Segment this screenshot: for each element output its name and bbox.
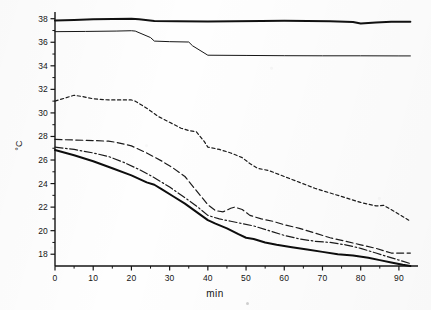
x-tick-label: 90 [385,274,413,283]
x-tick-label: 60 [270,274,298,283]
series-temperature-step-line [55,31,410,56]
y-tick-label: 28 [20,132,48,141]
series-dashed-temperature-curve [55,139,410,253]
x-tick-label: 30 [156,274,184,283]
y-tick-label: 32 [20,85,48,94]
x-tick-label: 70 [308,274,336,283]
x-tick-label: 50 [232,274,260,283]
y-tick-label: 22 [20,203,48,212]
x-tick-label: 80 [347,274,375,283]
y-tick-label: 38 [20,15,48,24]
y-tick-label: 34 [20,62,48,71]
figure-panel: °C min 182022242628303234363801020304050… [0,0,431,310]
x-tick-label: 0 [41,274,69,283]
y-tick-label: 26 [20,156,48,165]
series-dash-dot-temperature-curve [55,147,410,264]
x-axis-title: min [160,288,270,299]
line-chart-plot [0,0,431,310]
x-tick-label: 20 [117,274,145,283]
series-core-temperature-upper [55,19,410,24]
series-dotted-temperature-curve [55,95,410,221]
y-tick-label: 20 [20,227,48,236]
y-tick-label: 24 [20,180,48,189]
x-tick-label: 10 [79,274,107,283]
x-tick-label: 40 [194,274,222,283]
scan-speck [246,302,249,305]
y-tick-label: 36 [20,38,48,47]
y-tick-label: 30 [20,109,48,118]
y-tick-label: 18 [20,250,48,259]
